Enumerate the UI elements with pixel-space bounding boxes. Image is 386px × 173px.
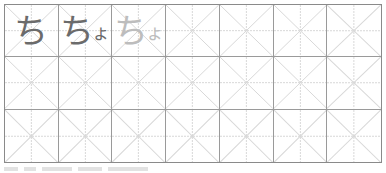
- kana-glyph: ち: [5, 5, 58, 56]
- cross-guide-icon: [166, 110, 219, 162]
- cross-guide-icon: [220, 5, 273, 56]
- grid-cell: [327, 57, 381, 109]
- kana-glyph: ちょ: [112, 5, 165, 56]
- kana-main: ち: [60, 14, 94, 48]
- faint-text-block: [24, 167, 36, 171]
- cross-guide-icon: [220, 57, 273, 108]
- cross-guide-icon: [274, 5, 327, 56]
- grid-cell: [112, 57, 166, 109]
- faint-text-block: [108, 167, 148, 171]
- grid-cell: [220, 110, 274, 162]
- practice-sheet: ちちょちょ: [4, 4, 382, 163]
- grid-cell: ちょ: [59, 5, 113, 57]
- kana-main: ち: [14, 14, 48, 48]
- cross-guide-icon: [274, 57, 327, 108]
- grid-cell: [112, 110, 166, 162]
- cross-guide-icon: [327, 110, 381, 162]
- cross-guide-icon: [166, 5, 219, 56]
- cross-guide-icon: [166, 57, 219, 108]
- kana-small: ょ: [92, 24, 110, 42]
- grid-cell: [166, 57, 220, 109]
- grid-cell: [59, 57, 113, 109]
- grid-cell: [166, 5, 220, 57]
- grid-cell: [5, 57, 59, 109]
- faint-text-block: [78, 167, 102, 171]
- kana-main: ち: [114, 14, 148, 48]
- grid-cell: [59, 110, 113, 162]
- footer-caption: [4, 165, 151, 172]
- cross-guide-icon: [274, 110, 327, 162]
- grid-cell: [274, 57, 328, 109]
- cross-guide-icon: [112, 110, 165, 162]
- grid-cell: [274, 5, 328, 57]
- faint-text-block: [4, 167, 18, 171]
- grid-cell: [220, 5, 274, 57]
- kana-glyph: ちょ: [59, 5, 112, 56]
- cross-guide-icon: [327, 57, 381, 108]
- grid-cell: [5, 110, 59, 162]
- cross-guide-icon: [59, 57, 112, 108]
- grid-cell: ち: [5, 5, 59, 57]
- grid-cell: [327, 5, 381, 57]
- faint-text-block: [42, 167, 72, 171]
- grid-cell: [166, 110, 220, 162]
- cross-guide-icon: [59, 110, 112, 162]
- cross-guide-icon: [5, 57, 58, 108]
- cross-guide-icon: [220, 110, 273, 162]
- kana-small: ょ: [146, 24, 164, 42]
- cross-guide-icon: [327, 5, 381, 56]
- grid-cell: ちょ: [112, 5, 166, 57]
- grid-cell: [220, 57, 274, 109]
- writing-grid: ちちょちょ: [5, 5, 381, 162]
- cross-guide-icon: [112, 57, 165, 108]
- grid-cell: [327, 110, 381, 162]
- grid-cell: [274, 110, 328, 162]
- cross-guide-icon: [5, 110, 58, 162]
